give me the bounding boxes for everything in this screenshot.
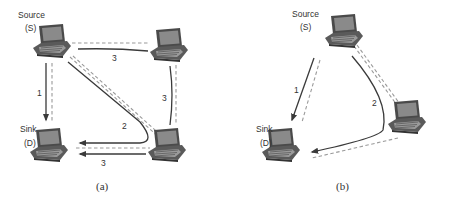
laptop-right-b-icon <box>388 100 426 134</box>
network-diagram: Source (S) Sink (D) 1 2 3 3 3 (a) Source… <box>0 0 454 205</box>
path-3-label-top: 3 <box>112 53 117 63</box>
laptop-source-icon <box>33 24 71 58</box>
source-sub-label: (S) <box>25 23 37 33</box>
path-1-label: 1 <box>37 88 42 98</box>
sink-label: Sink <box>20 124 37 134</box>
link-s-bottomright-2 <box>73 56 165 139</box>
path-3-label-bottom: 3 <box>101 158 106 168</box>
laptop-topright-icon <box>150 28 188 62</box>
path-3-topright-bottomright <box>170 66 172 125</box>
path-2-a <box>68 62 148 143</box>
source-b-sub-label: (S) <box>300 22 312 32</box>
caption-a: (a) <box>96 180 109 193</box>
sink-b-sub-label: (D) <box>260 138 272 148</box>
path-3-s-topright <box>78 49 148 51</box>
panel-a: Source (S) Sink (D) 1 2 3 3 3 (a) <box>18 10 188 193</box>
link-s-bottomright <box>70 57 162 140</box>
link-s-sink-b <box>302 60 320 122</box>
laptop-bottomright-icon <box>148 128 186 162</box>
sink-b-label: Sink <box>256 124 273 134</box>
panel-b: Source (S) Sink (D) 1 2 (b) <box>256 9 426 193</box>
path-2-label: 2 <box>122 121 127 131</box>
path-2-b-label: 2 <box>372 98 377 108</box>
path-1-b-label: 1 <box>294 85 299 95</box>
source-b-label: Source <box>292 9 319 19</box>
source-label: Source <box>18 10 45 20</box>
path-3-label-right: 3 <box>162 93 167 103</box>
link-right-sink-b <box>312 138 398 158</box>
caption-b: (b) <box>336 180 349 193</box>
laptop-source-b-icon <box>325 14 363 48</box>
sink-sub-label: (D) <box>24 138 36 148</box>
